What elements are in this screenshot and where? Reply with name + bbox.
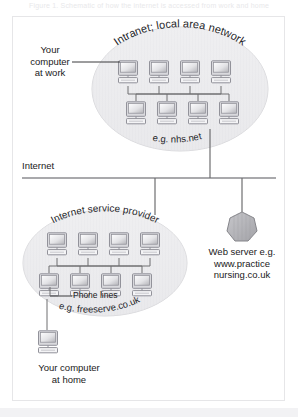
intranet-computer — [189, 102, 208, 124]
isp-computer — [48, 233, 67, 255]
intranet-computer — [212, 61, 231, 83]
intranet-computer — [150, 61, 169, 83]
intranet-computer — [127, 102, 146, 124]
web-server-label: Web server e.g. www.practice nursing.co.… — [192, 246, 292, 281]
home-computer-label: Your computer at home — [14, 362, 124, 385]
intranet-computer — [181, 61, 200, 83]
web-server-node — [227, 212, 257, 241]
internet-divider-label: Internet — [22, 160, 54, 172]
intranet-computer — [220, 102, 239, 124]
intranet-computer — [158, 102, 177, 124]
intranet-zone: Intranet; local area network — [92, 17, 268, 151]
diagram-canvas: Figure 1. Schematic of how the internet … — [0, 0, 298, 417]
isp-computer — [141, 233, 160, 255]
bottom-strip — [0, 408, 298, 417]
isp-computer — [110, 233, 129, 255]
intranet-computer — [119, 61, 138, 83]
isp-computer — [40, 274, 59, 296]
work-computer-label: Your computer at work — [22, 44, 78, 79]
phone-lines-label: Phone lines — [73, 290, 117, 302]
home-computer-node — [39, 331, 58, 353]
isp-computer — [79, 233, 98, 255]
isp-computer — [133, 274, 152, 296]
